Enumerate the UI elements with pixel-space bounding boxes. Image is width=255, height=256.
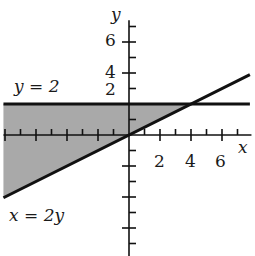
equation-label-y-equals-2: y = 2 — [14, 78, 59, 95]
y-tick-label-6: 6 — [105, 32, 116, 49]
equation-label-x-equals-2y: x = 2y — [9, 207, 64, 224]
x-tick-label-6: 6 — [215, 153, 226, 170]
eq-text: x = 2y — [9, 205, 64, 225]
y-axis-label: y — [111, 6, 121, 23]
x-axis-label: x — [238, 139, 248, 156]
y-tick-label-2: 2 — [105, 81, 116, 98]
x-tick-label-2: 2 — [154, 153, 165, 170]
x-tick-label-4: 4 — [185, 153, 196, 170]
eq-text: y = 2 — [14, 76, 59, 96]
